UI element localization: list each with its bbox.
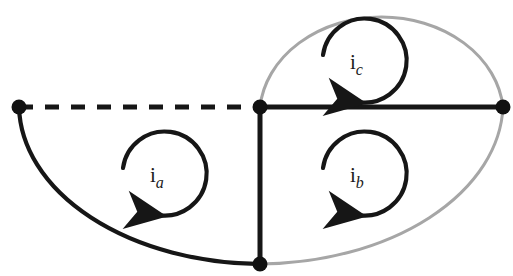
branch-arc-gray-bottom [260,107,503,264]
node-right [496,100,511,115]
branch-arc-gray-top [260,17,503,107]
node-center [253,100,268,115]
mesh-current-c: ic [323,19,407,103]
node-bottom [253,257,268,272]
mesh-current-b: ib [323,132,407,216]
mesh-current-b-subscript: b [356,174,364,191]
circuit-diagram-canvas: ia ib ic [0,0,513,276]
mesh-current-b-label: ib [350,163,364,191]
mesh-current-c-subscript: c [356,61,363,78]
mesh-current-a-subscript: a [156,174,164,191]
node-left [12,100,27,115]
circuit-diagram-svg: ia ib ic [0,0,513,276]
mesh-current-c-label: ic [350,50,363,78]
branch-arc-left [19,107,260,264]
mesh-current-a: ia [123,132,207,216]
mesh-current-a-label: ia [150,163,164,191]
